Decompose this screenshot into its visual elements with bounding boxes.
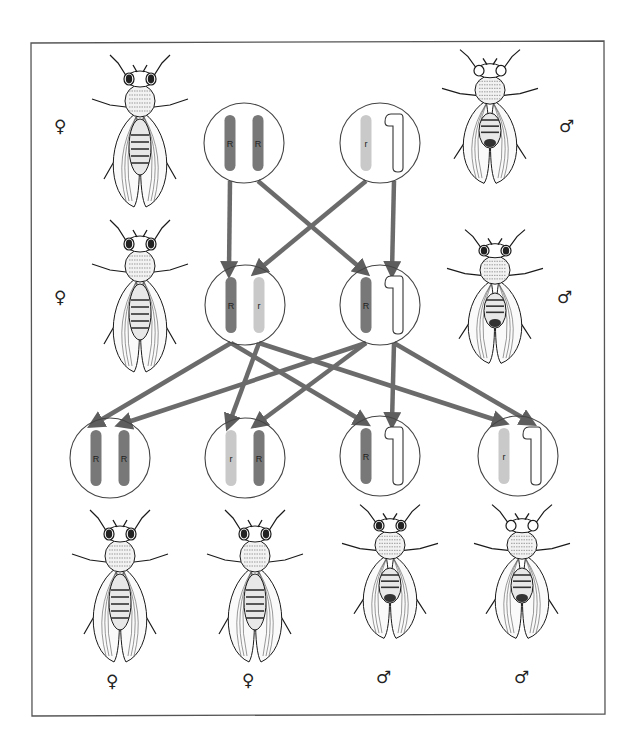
eye-pigment xyxy=(481,247,487,255)
fly-thorax xyxy=(375,531,405,559)
cell-f2-1: RR xyxy=(70,418,150,498)
white-eye xyxy=(474,65,484,76)
allele-label: R xyxy=(363,301,370,311)
cell-f1-male: R xyxy=(340,265,420,345)
fly-thorax xyxy=(480,256,510,284)
cell-p-male: r xyxy=(340,103,420,183)
allele-label: r xyxy=(230,454,233,464)
male-tip xyxy=(484,139,496,147)
fly-leg xyxy=(504,88,538,95)
inheritance-arrow xyxy=(229,181,230,271)
fly-leg xyxy=(269,554,303,562)
allele-label: R xyxy=(227,139,234,149)
eye-pigment xyxy=(106,530,112,539)
white-eye xyxy=(496,65,506,76)
y-chromosome xyxy=(523,427,541,485)
eye-pigment xyxy=(148,240,154,249)
allele-label: R xyxy=(228,301,235,311)
fly-thorax xyxy=(240,540,270,572)
cell-p-female: RR xyxy=(204,103,284,183)
fly-f2-1 xyxy=(72,510,168,662)
male-tip xyxy=(516,594,528,602)
fly-leg xyxy=(207,554,241,562)
cell-outline xyxy=(205,265,285,345)
allele-label: R xyxy=(93,454,100,464)
fly-leg xyxy=(447,268,481,275)
eye-pigment xyxy=(126,240,132,249)
fly-p-male xyxy=(442,50,538,184)
female-symbol: ♀ xyxy=(106,673,118,690)
white-eye xyxy=(506,520,516,531)
cell-f2-2: rR xyxy=(205,418,285,498)
male-symbol: ♂ xyxy=(514,669,529,686)
male-tip xyxy=(384,594,396,602)
male-tip xyxy=(489,319,501,327)
female-symbol: ♀ xyxy=(54,289,66,306)
fly-leg xyxy=(154,264,188,272)
fly-abdomen xyxy=(129,119,151,175)
fly-leg xyxy=(342,543,376,550)
fly-leg xyxy=(536,543,570,550)
fly-abdomen xyxy=(129,284,151,340)
male-symbol: ♂ xyxy=(376,669,391,686)
male-symbol: ♂ xyxy=(557,289,572,306)
cell-outline xyxy=(70,418,150,498)
inheritance-arrow xyxy=(392,343,394,422)
cell-outline xyxy=(205,418,285,498)
female-symbol: ♀ xyxy=(54,118,66,135)
white-eye xyxy=(528,520,538,531)
y-chromosome xyxy=(385,427,403,485)
fly-abdomen xyxy=(244,574,266,630)
eye-pigment xyxy=(126,75,132,84)
male-symbol: ♂ xyxy=(559,118,574,135)
allele-label: R xyxy=(363,452,370,462)
cell-outline xyxy=(340,103,420,183)
cell-f2-4: r xyxy=(478,416,558,496)
y-chromosome xyxy=(385,276,403,334)
cell-outline xyxy=(478,416,558,496)
cell-outline xyxy=(340,265,420,345)
fly-leg xyxy=(154,99,188,107)
fly-abdomen xyxy=(109,574,131,630)
fly-leg xyxy=(72,554,106,562)
fly-thorax xyxy=(507,531,537,559)
cell-outline xyxy=(340,416,420,496)
allele-label: R xyxy=(255,139,262,149)
fly-f2-3 xyxy=(342,505,438,639)
fly-leg xyxy=(134,554,168,562)
cell-f1-female: Rr xyxy=(205,265,285,345)
allele-label: r xyxy=(365,139,368,149)
fly-leg xyxy=(474,543,508,550)
eye-pigment xyxy=(263,530,269,539)
fly-p-female xyxy=(92,55,188,207)
inheritance-arrow xyxy=(392,181,394,271)
eye-pigment xyxy=(128,530,134,539)
allele-label: r xyxy=(503,452,506,462)
eye-pigment xyxy=(398,522,404,530)
fly-f1-male xyxy=(447,230,543,364)
fly-thorax xyxy=(125,250,155,282)
y-chromosome xyxy=(385,114,403,172)
fly-f1-female xyxy=(92,220,188,372)
female-symbol: ♀ xyxy=(242,672,254,689)
allele-label: r xyxy=(258,301,261,311)
inheritance-diagram: RRrRrRRRrRRr ♀♂♀♂♀♀♂♂ xyxy=(0,0,637,744)
fly-thorax xyxy=(475,76,505,104)
allele-label: R xyxy=(256,454,263,464)
fly-leg xyxy=(404,543,438,550)
fly-thorax xyxy=(125,85,155,117)
fly-f2-2 xyxy=(207,510,303,662)
diagram-canvas: RRrRrRRRrRRr xyxy=(0,0,637,744)
eye-pigment xyxy=(241,530,247,539)
cell-f2-3: R xyxy=(340,416,420,496)
allele-label: R xyxy=(121,454,128,464)
fly-leg xyxy=(92,99,126,107)
fly-leg xyxy=(509,268,543,275)
cell-outline xyxy=(204,103,284,183)
eye-pigment xyxy=(503,247,509,255)
eye-pigment xyxy=(148,75,154,84)
fly-f2-4 xyxy=(474,505,570,639)
fly-leg xyxy=(92,264,126,272)
eye-pigment xyxy=(376,522,382,530)
fly-leg xyxy=(442,88,476,95)
